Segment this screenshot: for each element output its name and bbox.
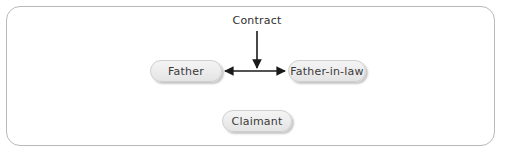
- node-claimant-label: Claimant: [232, 115, 283, 128]
- node-claimant[interactable]: Claimant: [222, 110, 292, 132]
- edge-label-contract: Contract: [222, 14, 292, 27]
- node-father[interactable]: Father: [150, 60, 222, 82]
- node-father-in-law[interactable]: Father-in-law: [288, 60, 366, 82]
- node-father-label: Father: [168, 65, 204, 78]
- node-father-in-law-label: Father-in-law: [290, 65, 363, 78]
